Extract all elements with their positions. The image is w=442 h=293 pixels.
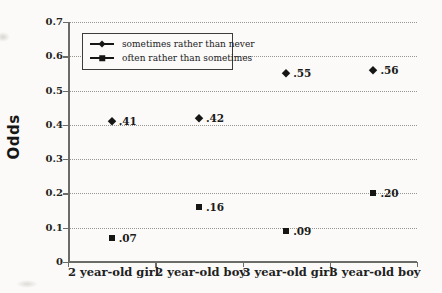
- scan-smudge: [0, 32, 10, 42]
- category-label: 3 year-old girl: [243, 265, 330, 281]
- point-value-label: .55: [293, 67, 311, 79]
- legend-diamond-icon: [98, 40, 105, 47]
- diamond-marker: [369, 66, 377, 74]
- scan-smudge: [16, 280, 38, 288]
- legend-key: [89, 53, 115, 63]
- legend-label: sometimes rather than never: [122, 39, 255, 50]
- point-value-label: .09: [293, 225, 311, 237]
- y-tick-mark: [63, 22, 68, 23]
- point-value-label: .42: [206, 112, 224, 124]
- y-tick-label: 0.6: [0, 50, 63, 62]
- y-tick-label: 0.2: [0, 187, 63, 199]
- gridline-0.7: [68, 22, 417, 23]
- square-marker: [196, 204, 202, 210]
- square-marker: [283, 228, 289, 234]
- diamond-marker: [195, 114, 203, 122]
- y-tick-label: 0: [0, 256, 63, 268]
- y-tick-label: 0.1: [0, 222, 63, 234]
- legend-key: [89, 39, 115, 49]
- gridline-0.5: [68, 91, 417, 92]
- y-tick-label: 0.5: [0, 85, 63, 97]
- chart-figure: Odds .41.42.55.56.07.16.09.20 sometimes …: [0, 0, 442, 293]
- legend-item: often rather than sometimes: [89, 51, 226, 65]
- point-value-label: .16: [206, 201, 224, 213]
- point-value-label: .56: [380, 64, 398, 76]
- y-tick-mark: [63, 193, 68, 194]
- point-value-label: .07: [119, 232, 137, 244]
- legend-label: often rather than sometimes: [122, 53, 252, 64]
- gridline-0.2: [68, 193, 417, 194]
- point-value-label: .20: [380, 187, 398, 199]
- y-tick-label: 0.7: [0, 16, 63, 28]
- square-marker: [109, 235, 115, 241]
- y-tick-mark: [63, 125, 68, 126]
- legend: sometimes rather than neveroften rather …: [82, 33, 233, 70]
- category-label: 3 year-old boy: [330, 265, 417, 281]
- legend-item: sometimes rather than never: [89, 37, 226, 51]
- y-tick-label: 0.3: [0, 153, 63, 165]
- legend-items: sometimes rather than neveroften rather …: [89, 37, 226, 65]
- y-axis-line: [68, 22, 70, 263]
- category-label: 2 year-old girl: [68, 265, 155, 281]
- y-tick-mark: [63, 91, 68, 92]
- y-tick-mark: [63, 56, 68, 57]
- category-label: 2 year-old boy: [155, 265, 242, 281]
- square-marker: [370, 190, 376, 196]
- y-tick-mark: [63, 159, 68, 160]
- y-tick-mark: [63, 228, 68, 229]
- plot-area: .41.42.55.56.07.16.09.20 sometimes rathe…: [68, 22, 417, 262]
- gridline-0.1: [68, 228, 417, 229]
- legend-square-icon: [99, 55, 105, 61]
- y-tick-label: 0.4: [0, 119, 63, 131]
- gridline-0.3: [68, 159, 417, 160]
- diamond-marker: [282, 70, 290, 78]
- point-value-label: .41: [119, 115, 137, 127]
